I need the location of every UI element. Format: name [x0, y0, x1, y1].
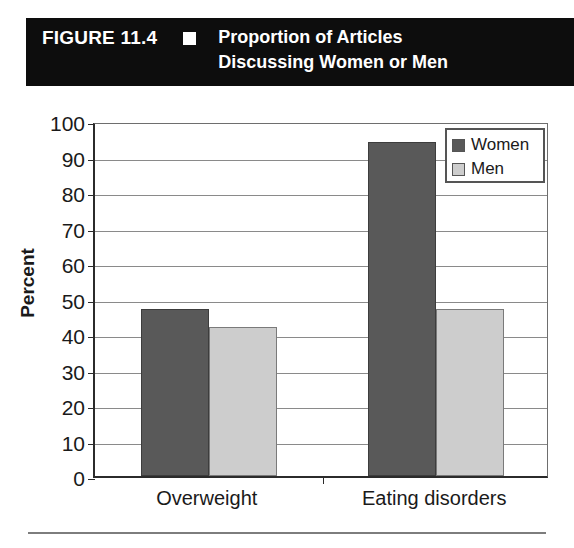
footer-divider — [28, 532, 546, 534]
light-gray-swatch-icon — [452, 163, 465, 176]
y-axis-tick — [88, 479, 95, 480]
gridline — [95, 302, 547, 303]
y-axis-tick-label: 90 — [62, 148, 85, 169]
gridline — [95, 266, 547, 267]
gridline — [95, 195, 547, 196]
bar-eating-disorders-women — [368, 142, 436, 476]
y-axis-tick — [88, 231, 95, 232]
y-axis-tick-label: 80 — [62, 184, 85, 205]
y-axis-tick — [88, 124, 95, 125]
bar-chart: Percent 0102030405060708090100 Women Men… — [0, 0, 574, 548]
legend-item-women: Women — [452, 133, 543, 157]
y-axis-tick — [88, 408, 95, 409]
x-axis-label-eating-disorders: Eating disorders — [324, 487, 544, 510]
y-axis-tick — [88, 160, 95, 161]
y-axis-tick-label: 70 — [62, 219, 85, 240]
y-axis-tick — [88, 302, 95, 303]
x-axis-label-overweight: Overweight — [97, 487, 317, 510]
y-axis-tick — [88, 444, 95, 445]
bar-overweight-men — [209, 327, 277, 476]
y-axis-tick-label: 10 — [62, 432, 85, 453]
y-axis-tick — [88, 373, 95, 374]
x-axis-tick — [323, 476, 324, 484]
gridline — [95, 231, 547, 232]
y-axis-tick-label: 60 — [62, 255, 85, 276]
dark-gray-swatch-icon — [452, 139, 465, 152]
y-axis-tick-label: 20 — [62, 397, 85, 418]
y-axis-tick — [88, 195, 95, 196]
y-axis-tick-label: 30 — [62, 361, 85, 382]
y-axis-tick-label: 40 — [62, 326, 85, 347]
y-axis-tick-labels: 0102030405060708090100 — [33, 123, 85, 478]
legend-item-men: Men — [452, 157, 543, 181]
chart-legend: Women Men — [445, 128, 545, 183]
legend-label-women: Women — [471, 135, 529, 155]
bar-overweight-women — [141, 309, 209, 476]
y-axis-tick-label: 50 — [62, 290, 85, 311]
y-axis-tick-label: 100 — [50, 113, 85, 134]
y-axis-tick — [88, 266, 95, 267]
legend-label-men: Men — [471, 159, 504, 179]
y-axis-tick-label: 0 — [73, 468, 85, 489]
y-axis-tick — [88, 337, 95, 338]
bar-eating-disorders-men — [436, 309, 504, 476]
